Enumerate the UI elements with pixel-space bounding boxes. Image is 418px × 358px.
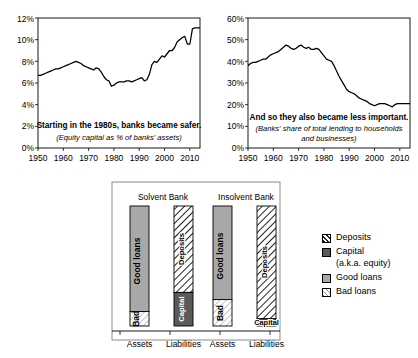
legend-swatch-good-loans-icon [322, 274, 331, 283]
chart2-xtick-2010: 2010 [390, 153, 409, 163]
legend-swatch-deposits-icon [322, 234, 331, 243]
figure-root: 12% 10% 8% 6% 4% 2% 0% [0, 0, 418, 358]
chart1-ytick-8: 8% [22, 57, 35, 67]
legend-swatch-capital-icon [322, 248, 331, 257]
chart1-ytick-12: 12% [17, 14, 34, 24]
chart1-xtick-1990: 1990 [130, 153, 149, 163]
insolvent-assets-good-loans-label: Good loans [215, 232, 225, 279]
chart2-ytick-10: 10% [227, 121, 244, 131]
insolvent-liabilities-capital-label: Capital [254, 318, 279, 327]
balance-sheets-legend: Deposits Capital (a.k.a. equity) Good lo… [322, 232, 418, 300]
chart2-caption-subtitle-line1: (Banks' share of total lending to househ… [255, 124, 402, 133]
chart2-ytick-40: 40% [227, 57, 244, 67]
legend-item-bad-loans: Bad loans [322, 286, 418, 297]
chart1-caption-subtitle: (Equity capital as % of banks' assets) [56, 133, 182, 142]
chart2-y-axis: 60% 50% 40% 30% 20% 10% 0% [227, 14, 244, 153]
chart-equity-capital: 12% 10% 8% 6% 4% 2% 0% [0, 0, 208, 168]
chart1-ytick-6: 6% [22, 78, 35, 88]
insolvent-liabilities-axis-label: Liabilities [249, 339, 284, 349]
chart1-x-axis: 1950 1960 1970 1980 1990 2000 2010 [29, 153, 200, 163]
chart2-xtick-1980: 1980 [314, 153, 333, 163]
chart2-ytick-30: 30% [227, 78, 244, 88]
chart2-xtick-1960: 1960 [264, 153, 283, 163]
chart1-xtick-1980: 1980 [104, 153, 123, 163]
legend-label-good-loans: Good loans [336, 272, 382, 283]
chart1-ytick-4: 4% [22, 100, 35, 110]
chart1-caption-title: Starting in the 1980s, banks became safe… [37, 121, 202, 130]
chart1-ytick-10: 10% [17, 35, 34, 45]
chart2-ytick-60: 60% [227, 14, 244, 24]
chart1-xtick-2000: 2000 [155, 153, 174, 163]
chart2-data-line [248, 45, 410, 107]
solvent-assets-bad-loans-label: Bad [132, 311, 142, 327]
solvent-liabilities-bar: Deposits Capital [174, 206, 193, 326]
solvent-liabilities-deposits-label: Deposits [177, 233, 186, 265]
chart2-ytick-20: 20% [227, 100, 244, 110]
solvent-liabilities-capital-label: Capital [177, 296, 186, 321]
chart1-xtick-2010: 2010 [180, 153, 199, 163]
legend-swatch-bad-loans-icon [322, 288, 331, 297]
chart2-xtick-1990: 1990 [340, 153, 359, 163]
chart-equity-capital-svg: 12% 10% 8% 6% 4% 2% 0% [0, 0, 208, 168]
chart2-xtick-2000: 2000 [365, 153, 384, 163]
chart2-ytick-50: 50% [227, 35, 244, 45]
insolvent-assets-bar: Good loans Bad [213, 206, 232, 326]
legend-label-capital: Capital [336, 246, 364, 257]
chart1-ytick-2: 2% [22, 121, 35, 131]
chart1-xtick-1970: 1970 [79, 153, 98, 163]
chart2-ytick-0: 0% [232, 143, 245, 153]
chart1-y-axis: 12% 10% 8% 6% 4% 2% 0% [17, 14, 34, 153]
chart1-data-line [38, 28, 200, 87]
legend-item-deposits: Deposits [322, 232, 418, 243]
chart2-caption-subtitle-line2: and businesses) [301, 134, 357, 143]
chart-bank-lending-share-svg: 60% 50% 40% 30% 20% 10% 0% [208, 0, 418, 168]
insolvent-liabilities-bar: Deposits Capital [254, 206, 279, 327]
chart1-ytick-0: 0% [22, 143, 35, 153]
chart1-xtick-1950: 1950 [29, 153, 48, 163]
solvent-assets-good-loans-label: Good loans [132, 237, 142, 284]
insolvent-assets-bad-loans-label: Bad [215, 305, 225, 321]
insolvent-bank-title: Insolvent Bank [218, 192, 275, 202]
chart-bank-lending-share: 60% 50% 40% 30% 20% 10% 0% [208, 0, 418, 168]
legend-label-capital-sub: (a.k.a. equity) [336, 258, 418, 269]
legend-item-capital: Capital [322, 246, 418, 257]
balance-sheets-tickmarks [120, 331, 270, 335]
chart1-xtick-1960: 1960 [54, 153, 73, 163]
legend-item-good-loans: Good loans [322, 272, 418, 283]
solvent-assets-bar: Good loans Bad [130, 206, 149, 327]
chart2-caption-title: And so they also became less important. [250, 113, 409, 122]
solvent-bank-title: Solvent Bank [138, 192, 189, 202]
chart2-xtick-1970: 1970 [289, 153, 308, 163]
chart2-xtick-1950: 1950 [239, 153, 258, 163]
solvent-assets-axis-label: Assets [127, 339, 153, 349]
chart2-x-axis: 1950 1960 1970 1980 1990 2000 2010 [239, 153, 410, 163]
insolvent-assets-axis-label: Assets [210, 339, 236, 349]
legend-label-bad-loans: Bad loans [336, 286, 376, 297]
insolvent-liabilities-deposits-label: Deposits [260, 246, 269, 278]
legend-label-deposits: Deposits [336, 232, 371, 243]
solvent-liabilities-axis-label: Liabilities [166, 339, 201, 349]
